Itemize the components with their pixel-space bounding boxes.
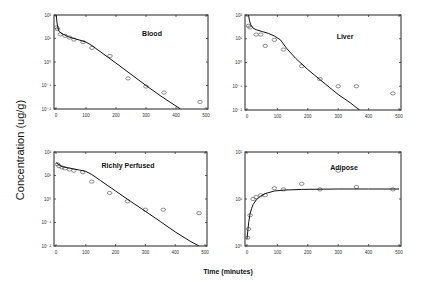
- x-tick-label: 300: [142, 113, 150, 118]
- y-tick-label: 10⁰: [235, 244, 242, 249]
- y-axis-label: Concentration (ug/g): [14, 100, 26, 200]
- x-tick-label: 500: [395, 250, 403, 255]
- data-point: [272, 38, 277, 41]
- data-point: [272, 187, 277, 190]
- panel-richly-perfused: 010020030040050010⁻²10⁻¹10⁰10¹10²Richly …: [41, 150, 209, 256]
- data-point: [354, 85, 359, 88]
- data-point: [89, 180, 94, 183]
- x-tick-label: 200: [304, 250, 312, 255]
- y-tick-label: 10²: [235, 13, 242, 18]
- x-tick-label: 0: [246, 114, 249, 119]
- data-point: [263, 44, 268, 47]
- panel-title: Liver: [337, 33, 354, 40]
- x-tick-label: 0: [55, 113, 58, 118]
- x-tick-label: 500: [395, 114, 403, 119]
- data-point: [197, 212, 202, 215]
- data-point: [391, 92, 396, 95]
- y-tick-label: 10²: [44, 13, 51, 18]
- y-tick-label: 10⁻²: [41, 244, 51, 249]
- x-tick-label: 400: [365, 250, 373, 255]
- x-tick-label: 200: [304, 114, 312, 119]
- y-tick-label: 10¹: [44, 36, 51, 41]
- x-tick-label: 400: [171, 250, 179, 255]
- model-curve: [56, 163, 199, 246]
- data-point: [258, 33, 263, 36]
- panel-title: Blood: [142, 30, 162, 37]
- data-point: [198, 100, 203, 103]
- figure-canvas: 010020030040050010⁻²10⁻¹10⁰10¹10²Blood01…: [0, 0, 421, 288]
- data-point: [254, 33, 259, 36]
- x-tick-label: 500: [202, 113, 210, 118]
- x-tick-label: 0: [55, 250, 58, 255]
- x-tick-label: 400: [365, 114, 373, 119]
- data-point: [299, 182, 304, 185]
- data-point: [107, 191, 112, 194]
- y-tick-label: 10⁰: [44, 60, 51, 65]
- y-tick-label: 10⁻¹: [41, 83, 51, 88]
- data-point: [336, 85, 341, 88]
- x-tick-label: 100: [82, 250, 90, 255]
- plot-frame: [245, 15, 401, 110]
- x-tick-label: 300: [334, 114, 342, 119]
- x-tick-label: 200: [112, 113, 120, 118]
- data-point: [126, 77, 131, 80]
- panel-liver: 010020030040050010⁻²10⁻¹10⁰10¹10²Liver: [232, 13, 403, 120]
- x-tick-label: 100: [274, 250, 282, 255]
- data-point: [354, 185, 359, 188]
- panel-blood: 010020030040050010⁻²10⁻¹10⁰10¹10²Blood: [41, 13, 210, 119]
- x-tick-label: 0: [246, 250, 249, 255]
- panel-title: Adipose: [330, 164, 358, 172]
- y-tick-label: 10²: [235, 150, 242, 155]
- y-tick-label: 10¹: [44, 173, 51, 178]
- x-tick-label: 300: [142, 250, 150, 255]
- data-point: [281, 48, 286, 51]
- x-tick-label: 100: [82, 113, 90, 118]
- x-tick-label: 400: [172, 113, 180, 118]
- panel-adipose: 010020030040050010⁰10¹10²Adipose: [235, 150, 403, 256]
- x-tick-label: 300: [334, 250, 342, 255]
- panel-title: Richly Perfused: [102, 162, 155, 170]
- y-tick-label: 10⁰: [44, 197, 51, 202]
- x-tick-label: 100: [274, 114, 282, 119]
- y-tick-label: 10¹: [235, 36, 242, 41]
- x-tick-label: 200: [112, 250, 120, 255]
- plot-frame: [245, 152, 401, 246]
- data-point: [161, 208, 166, 211]
- y-tick-label: 10⁻²: [41, 107, 51, 112]
- data-point: [251, 197, 256, 200]
- x-tick-label: 500: [201, 250, 209, 255]
- model-curve: [249, 15, 360, 110]
- y-tick-label: 10¹: [235, 197, 242, 202]
- y-tick-label: 10⁰: [235, 60, 242, 65]
- y-tick-label: 10⁻¹: [232, 84, 242, 89]
- y-tick-label: 10⁻¹: [41, 220, 51, 225]
- plot-frame: [54, 15, 208, 109]
- y-tick-label: 10⁻²: [232, 108, 242, 113]
- model-curve: [247, 189, 399, 239]
- data-point: [162, 91, 167, 94]
- x-axis-label: Time (minutes): [203, 268, 253, 275]
- y-tick-label: 10²: [44, 150, 51, 155]
